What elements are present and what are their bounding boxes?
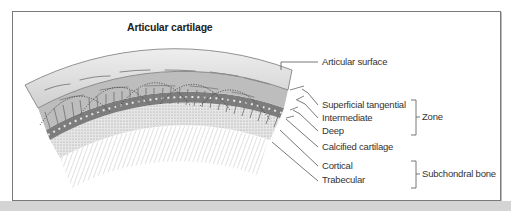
label-articular-surface: Articular surface <box>322 56 387 67</box>
label-intermediate: Intermediate <box>322 112 372 123</box>
label-deep: Deep <box>322 125 344 136</box>
label-trabecular: Trabecular <box>322 174 365 185</box>
label-superficial-tangential: Superficial tangential <box>322 99 406 110</box>
group-label-subchondral-bone: Subchondral bone <box>422 168 496 179</box>
label-cortical: Cortical <box>322 160 353 171</box>
group-label-zone: Zone <box>422 111 443 122</box>
cartilage-diagram <box>0 0 511 211</box>
diagram-title: Articular cartilage <box>127 21 213 33</box>
label-calcified-cartilage: Calcified cartilage <box>322 141 393 152</box>
